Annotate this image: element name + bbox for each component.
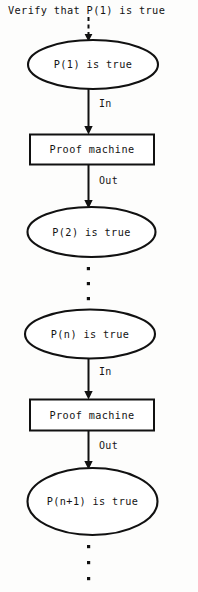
node-pn[interactable]: P(n) is true (25, 310, 155, 359)
edge-verify-dashed (85, 17, 93, 42)
arrowhead-in-1-icon (84, 126, 92, 135)
edge-in-1: In (84, 89, 111, 135)
flowchart-canvas: Verify that P(1) is true P(1) is true In… (0, 0, 198, 592)
node-pn1[interactable]: P(n+1) is true (28, 468, 158, 535)
node-proof-machine-1[interactable]: Proof machine (30, 135, 154, 165)
edge-in-1-label: In (99, 98, 112, 109)
edge-out-1: Out (84, 165, 118, 209)
induction-flowchart: Verify that P(1) is true P(1) is true In… (0, 0, 198, 592)
ellipsis-middle-dot-3 (87, 297, 90, 300)
edge-in-2: In (84, 358, 111, 400)
node-p1-label: P(1) is true (54, 59, 132, 70)
ellipsis-bottom-dot-2 (87, 561, 90, 564)
edge-out-2: Out (84, 431, 118, 470)
page-title: Verify that P(1) is true (8, 4, 165, 16)
edge-out-1-label: Out (99, 175, 118, 186)
node-proof-machine-2[interactable]: Proof machine (30, 400, 154, 431)
node-p2[interactable]: P(2) is true (28, 207, 156, 257)
node-p1[interactable]: P(1) is true (28, 40, 158, 89)
ellipsis-middle-dot-2 (87, 282, 90, 285)
edge-out-2-label: Out (99, 440, 118, 451)
arrowhead-in-2-icon (84, 391, 92, 400)
ellipsis-middle-dot-1 (87, 267, 90, 270)
ellipsis-bottom (87, 545, 90, 580)
node-pn1-label: P(n+1) is true (47, 496, 138, 507)
node-proof-machine-1-label: Proof machine (50, 144, 135, 155)
ellipsis-bottom-dot-1 (87, 545, 90, 548)
ellipsis-bottom-dot-3 (87, 577, 90, 580)
edge-in-2-label: In (99, 366, 112, 377)
node-proof-machine-2-label: Proof machine (50, 410, 135, 421)
node-p2-label: P(2) is true (52, 227, 130, 238)
ellipsis-middle (87, 267, 90, 300)
node-pn-label: P(n) is true (51, 329, 129, 340)
